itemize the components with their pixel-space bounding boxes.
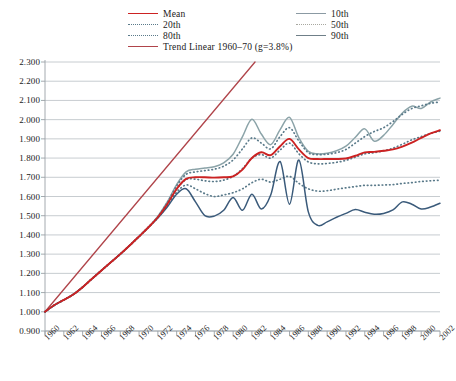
- legend-item-mean: Mean: [128, 8, 185, 19]
- legend-item-90th: 90th: [296, 30, 349, 41]
- x-axis-labels: 1960196219641966196819701972197419761978…: [0, 335, 446, 381]
- legend-label: Trend Linear 1960–70 (g=3.8%): [163, 42, 293, 52]
- legend-item-20th: 20th: [128, 19, 181, 30]
- legend-label: Mean: [163, 9, 185, 19]
- series-line-trend-linear: [45, 62, 255, 312]
- legend-label: 10th: [331, 9, 349, 19]
- legend-item-10th: 10th: [296, 8, 349, 19]
- legend-swatch-icon: [296, 32, 326, 39]
- series-line-mean: [45, 130, 440, 312]
- legend-swatch-icon: [128, 10, 158, 17]
- plot-area: [0, 54, 446, 339]
- legend-label: 20th: [163, 20, 181, 30]
- legend-item-80th: 80th: [128, 30, 181, 41]
- legend-swatch-icon: [128, 21, 158, 28]
- legend-label: 90th: [331, 31, 349, 41]
- series-line-10th: [45, 160, 440, 312]
- legend-swatch-icon: [128, 32, 158, 39]
- legend-swatch-icon: [296, 10, 326, 17]
- series-line-90th: [45, 98, 440, 312]
- legend-item-trend-linear-1960-70-g-3-8: Trend Linear 1960–70 (g=3.8%): [128, 41, 293, 52]
- plot-svg: [0, 54, 446, 339]
- legend-item-50th: 50th: [296, 19, 349, 30]
- legend-label: 80th: [163, 31, 181, 41]
- series-line-80th: [45, 102, 440, 312]
- legend-label: 50th: [331, 20, 349, 30]
- legend-swatch-icon: [128, 43, 158, 50]
- chart-legend: Mean20th80thTrend Linear 1960–70 (g=3.8%…: [0, 0, 446, 54]
- legend-swatch-icon: [296, 21, 326, 28]
